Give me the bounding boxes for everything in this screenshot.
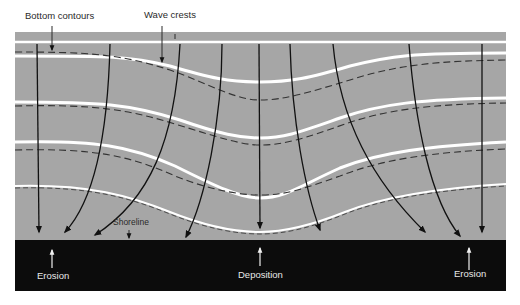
label-erosion-right: Erosion	[454, 268, 486, 279]
label-shoreline: Shoreline	[113, 217, 149, 227]
label-deposition: Deposition	[238, 269, 283, 280]
wave-refraction-diagram	[0, 0, 520, 305]
label-erosion-left: Erosion	[37, 270, 69, 281]
label-bottom-contours: Bottom contours	[25, 10, 94, 21]
label-wave-crests: Wave crests	[144, 9, 196, 20]
